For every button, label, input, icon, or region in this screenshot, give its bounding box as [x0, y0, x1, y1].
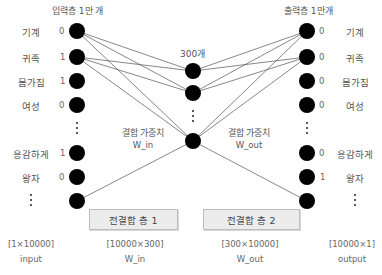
network-graph	[0, 0, 382, 275]
output-word: 귀족	[325, 51, 382, 65]
w-out-shape: [300×10000]	[215, 239, 285, 249]
input-word: 왕자	[1, 171, 61, 185]
output-word: 기계	[325, 25, 382, 39]
w-out-name: W_out	[214, 140, 284, 150]
output-word: 용감하게	[325, 147, 382, 161]
hidden-nodes	[185, 63, 201, 149]
input-shape: [1×10000]	[1, 239, 61, 249]
fully-connected-layer-1: 전결합 층 1	[89, 209, 178, 230]
output-word: 몸가짐	[325, 75, 382, 89]
output-value: 0	[319, 100, 324, 110]
output-layer-title: 출력층 1만개	[284, 4, 333, 17]
w-in-name: W_in	[108, 140, 178, 150]
output-shape: [10000×1]	[322, 239, 382, 249]
input-word: 귀족	[1, 51, 61, 65]
input-value: 0	[59, 172, 64, 182]
w-out-label: 결합 가중치	[214, 126, 284, 139]
w-out-shape-name: W_out	[215, 254, 285, 264]
input-value: 1	[60, 76, 65, 86]
output-value: 0	[319, 148, 324, 158]
output-nodes	[299, 23, 315, 209]
input-word: 기계	[1, 25, 61, 39]
w-in-shape: [10000×300]	[100, 239, 170, 249]
input-nodes	[69, 23, 85, 209]
output-word: 왕자	[325, 171, 382, 185]
input-word: 용감하게	[1, 147, 61, 161]
input-word: 몸가짐	[1, 75, 61, 89]
output-value: 0	[319, 76, 324, 86]
w-in-label: 결합 가중치	[108, 126, 178, 139]
output-value: 0	[319, 52, 324, 62]
output-word: 여성	[325, 99, 382, 113]
input-layer-title: 입력층 1만 개	[52, 4, 103, 17]
w-in-shape-name: W_in	[100, 254, 170, 264]
input-value: 0	[59, 100, 64, 110]
input-name: input	[1, 254, 61, 264]
fully-connected-layer-2: 전결합 층 2	[203, 209, 300, 230]
input-value: 1	[60, 148, 65, 158]
hidden-layer-title: 300개	[180, 47, 205, 60]
input-word: 여성	[1, 99, 61, 113]
input-value: 1	[60, 52, 65, 62]
output-name: output	[322, 254, 382, 264]
input-value: 0	[59, 26, 64, 36]
output-value: 0	[319, 26, 324, 36]
